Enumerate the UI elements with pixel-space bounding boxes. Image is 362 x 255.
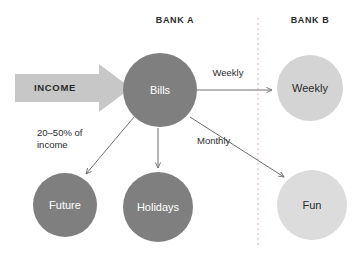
node-holidays-label: Holidays xyxy=(137,201,180,213)
edge-label-monthly: Monthly xyxy=(197,135,231,146)
diagram-canvas: BANK A BANK B INCOME Weekly 20–50% of in… xyxy=(0,0,362,255)
edge-label-weekly: Weekly xyxy=(213,67,244,78)
edge-label-percent-line2: income xyxy=(37,139,68,150)
node-bills[interactable]: Bills xyxy=(123,53,197,127)
edge-bills-to-future xyxy=(86,117,134,174)
header-bank-b: BANK B xyxy=(291,15,330,25)
node-weekly[interactable]: Weekly xyxy=(277,55,343,121)
diagram-svg: BANK A BANK B INCOME Weekly 20–50% of in… xyxy=(0,0,362,255)
node-weekly-label: Weekly xyxy=(292,82,328,94)
node-bills-label: Bills xyxy=(150,84,171,96)
node-fun-label: Fun xyxy=(303,199,322,211)
income-arrow-label: INCOME xyxy=(34,82,76,93)
edge-bills-to-fun xyxy=(190,117,284,177)
node-future-label: Future xyxy=(49,199,81,211)
node-holidays[interactable]: Holidays xyxy=(123,172,193,242)
edge-label-percent-line1: 20–50% of xyxy=(37,127,83,138)
header-bank-a: BANK A xyxy=(156,15,194,25)
node-fun[interactable]: Fun xyxy=(277,170,347,240)
node-future[interactable]: Future xyxy=(33,173,97,237)
